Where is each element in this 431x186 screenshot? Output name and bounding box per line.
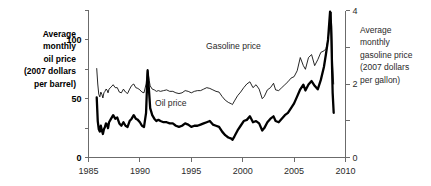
right-axis: 024 <box>346 6 358 163</box>
x-tick-label: 1985 <box>78 166 98 176</box>
right-tick-label: 2 <box>353 79 358 89</box>
x-tick-label: 1995 <box>181 166 201 176</box>
left-axis-title: Average monthly oil price (2007 dollars … <box>4 28 76 90</box>
left-tick-label: 0 <box>76 153 81 163</box>
x-tick-label: 2000 <box>233 166 253 176</box>
right-axis-title: Average monthly gasoline price (2007 dol… <box>360 24 430 86</box>
data-series <box>97 12 334 140</box>
series-annotations: Gasoline priceOil price <box>155 41 261 108</box>
left-axis-title-line-4: (2007 dollars <box>4 65 76 77</box>
right-axis-title-line-4: (2007 dollars <box>360 61 430 73</box>
left-axis-title-line-2: monthly <box>4 40 76 52</box>
gasoline-price-annotation: Gasoline price <box>206 41 261 51</box>
right-axis-title-line-1: Average <box>360 24 430 36</box>
right-tick-label: 0 <box>353 153 358 163</box>
left-axis-title-line-3: oil price <box>4 53 76 65</box>
left-axis-title-line-1: Average <box>4 28 76 40</box>
right-axis-title-line-5: per gallon) <box>360 74 430 86</box>
chart-figure: Average monthly oil price (2007 dollars … <box>0 0 431 186</box>
left-axis-title-line-5: per barrel) <box>4 78 76 90</box>
gasoline-price-line <box>97 12 334 105</box>
right-tick-label: 4 <box>353 6 358 16</box>
x-tick-label: 2010 <box>335 166 355 176</box>
left-tick-label: 50 <box>71 94 81 104</box>
x-tick-label: 2005 <box>284 166 304 176</box>
x-axis: 198519901995200020052010 <box>78 158 355 176</box>
oil-price-annotation: Oil price <box>155 98 187 108</box>
right-axis-title-line-2: monthly <box>360 36 430 48</box>
oil-price-line <box>97 12 334 140</box>
right-axis-title-line-3: gasoline price <box>360 49 430 61</box>
x-tick-label: 1990 <box>130 166 150 176</box>
